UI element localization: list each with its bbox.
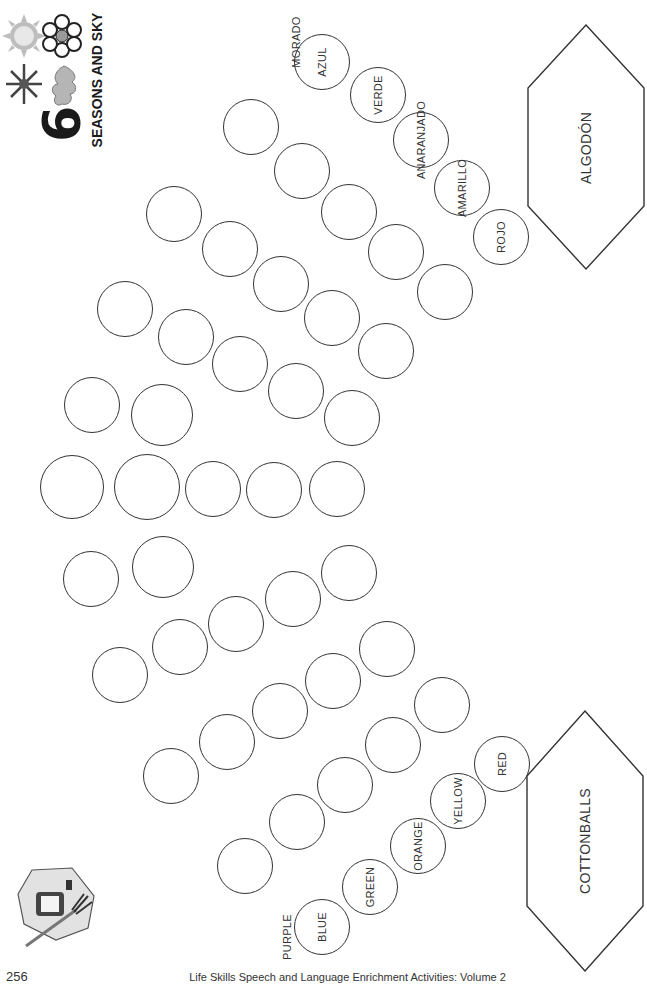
blank-circle	[309, 461, 365, 517]
chapter-title: SEASONS AND SKY	[89, 13, 105, 148]
circle-label: RED	[496, 752, 508, 776]
circle-label: ANARANJADO	[415, 101, 427, 179]
color-circle-red: RED	[474, 736, 530, 792]
color-circle-green: GREEN	[342, 859, 398, 915]
blank-circle	[132, 536, 194, 598]
blank-circle	[143, 748, 199, 804]
blank-circle	[63, 551, 119, 607]
blank-circle	[265, 571, 321, 627]
color-circle-yellow: YELLOW	[430, 773, 486, 829]
blank-circle	[199, 714, 255, 770]
blank-circle	[304, 290, 360, 346]
circle-label: VERDE	[372, 75, 384, 114]
hexagon-label-cottonballs: COTTONBALLS	[577, 788, 593, 894]
circle-label: ROJO	[495, 221, 507, 253]
blank-circle	[202, 221, 258, 277]
circle-label: BLUE	[316, 912, 328, 942]
blank-circle	[114, 454, 180, 520]
blank-circle	[92, 647, 148, 703]
circle-label: AMARILLO	[456, 159, 468, 217]
blank-circle	[64, 377, 120, 433]
blank-circle	[131, 384, 193, 446]
label-purple: PURPLE	[281, 914, 293, 960]
blank-circle	[317, 757, 373, 813]
circle-label: GREEN	[364, 867, 376, 908]
color-circle-rojo: ROJO	[473, 209, 529, 265]
blank-circle	[152, 619, 208, 675]
color-circle-orange: ORANGE	[390, 818, 446, 874]
blank-circle	[417, 264, 473, 320]
blank-circle	[146, 186, 202, 242]
color-circle-anaranjado: ANARANJADO	[393, 112, 449, 168]
blank-circle	[185, 461, 241, 517]
blank-circle	[223, 99, 279, 155]
blank-circle	[321, 545, 377, 601]
worksheet-page: 6 SEASONS AND SKY ALGODÓN COTTONBALLS MO…	[0, 0, 647, 991]
blank-circle	[359, 621, 415, 677]
blank-circle	[212, 336, 268, 392]
blank-circle	[158, 309, 214, 365]
footer-book-title: Life Skills Speech and Language Enrichme…	[0, 971, 647, 983]
blank-circle	[368, 224, 424, 280]
circle-label: YELLOW	[452, 777, 464, 825]
color-circle-azul: AZUL	[294, 34, 350, 90]
circle-label: AZUL	[316, 47, 328, 76]
sun-icon	[2, 14, 46, 58]
blank-circle	[365, 717, 421, 773]
flower-icon	[42, 14, 82, 58]
blank-circle	[274, 143, 330, 199]
blank-circle	[97, 281, 153, 337]
blank-circle	[414, 677, 470, 733]
color-circle-verde: VERDE	[350, 67, 406, 123]
book-title: Life Skills Speech and Language Enrichme…	[189, 971, 506, 983]
hexagon-label-algodon: ALGODÓN	[578, 112, 594, 184]
blank-circle	[324, 390, 380, 446]
blank-circle	[246, 462, 302, 518]
blank-circle	[40, 455, 104, 519]
color-circle-blue: BLUE	[294, 899, 350, 955]
blank-circle	[358, 323, 414, 379]
snowflake-icon	[4, 62, 44, 106]
blank-circle	[217, 838, 273, 894]
blank-circle	[208, 596, 264, 652]
circle-label: ORANGE	[412, 821, 424, 870]
glue-and-paintbrush-icon	[14, 866, 98, 952]
blank-circle	[253, 256, 309, 312]
blank-circle	[305, 653, 361, 709]
blank-circle	[252, 683, 308, 739]
chapter-number: 6	[40, 102, 84, 146]
blank-circle	[269, 794, 325, 850]
blank-circle	[321, 184, 377, 240]
blank-circle	[268, 363, 324, 419]
color-circle-amarillo: AMARILLO	[434, 160, 490, 216]
